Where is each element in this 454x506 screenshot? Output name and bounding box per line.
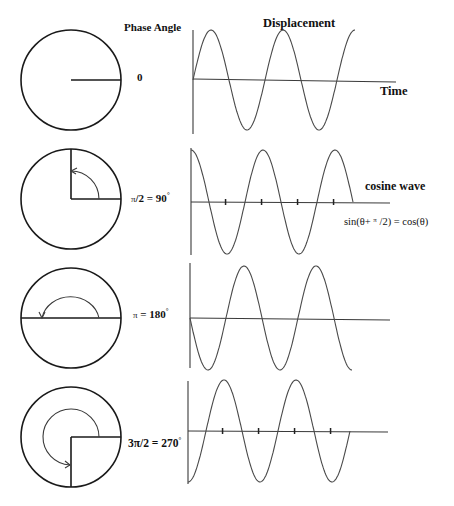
arrow-head-icon xyxy=(39,312,45,318)
angle-label: 0 xyxy=(137,71,143,83)
angle-label: π/2 = 90° xyxy=(131,191,170,204)
panel-phase-270: 3π/2 = 270° xyxy=(21,380,388,487)
cosine-wave-label: cosine wave xyxy=(365,179,426,193)
panel-phase-180: π = 180° xyxy=(21,263,390,370)
angle-label: 3π/2 = 270° xyxy=(128,436,182,449)
equation-label: sin(θ+ π /2) = cos(θ) xyxy=(344,216,429,228)
phase-angle-header: Phase Angle xyxy=(124,21,181,33)
rotation-arc xyxy=(42,297,99,318)
phase-angle-diagram: Phase Angle Displacement 0 Time π/2 = 90… xyxy=(0,0,454,506)
panel-phase-90: π/2 = 90° cosine wave sin(θ+ π /2) = cos… xyxy=(21,148,429,255)
time-axis xyxy=(190,318,390,320)
rotation-arc xyxy=(71,171,99,199)
time-axis xyxy=(188,431,388,432)
panel-phase-0: 0 Time xyxy=(21,30,408,134)
time-axis xyxy=(191,202,390,203)
angle-label: π = 180° xyxy=(133,307,169,320)
time-axis-label: Time xyxy=(380,84,408,98)
time-axis xyxy=(193,79,396,82)
displacement-header: Displacement xyxy=(263,16,336,30)
